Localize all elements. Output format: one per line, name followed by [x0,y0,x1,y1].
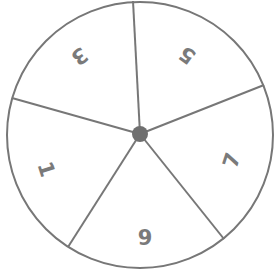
svg-text:9: 9 [138,226,153,250]
spinner-wheel: 9 1 3 5 7 [0,0,277,273]
spinner-hub [132,126,148,142]
section-9: 9 [138,226,153,250]
